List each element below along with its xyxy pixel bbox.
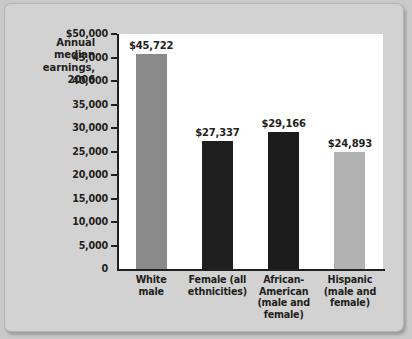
- y-axis-tick: 20,000: [5, 169, 117, 181]
- y-axis-tick: 10,000: [5, 216, 117, 228]
- x-axis-category-label-line: White: [117, 274, 185, 286]
- figure-card: Annualmedianearnings,2006 $50,00045,0004…: [4, 3, 404, 332]
- y-axis-tick: 15,000: [5, 193, 117, 205]
- y-axis-tick-label: 0: [102, 263, 108, 275]
- y-axis-tick-mark: [111, 33, 117, 35]
- x-axis-category-label: Female (allethnicities): [183, 274, 251, 297]
- y-axis-tick-label: $50,000: [66, 28, 108, 40]
- y-axis-tick-label: 20,000: [72, 169, 108, 181]
- y-axis-tick: 0: [5, 263, 117, 275]
- y-axis-tick: 40,000: [5, 75, 117, 87]
- x-axis-category-label-line: ethnicities): [183, 286, 251, 298]
- bar-value-label: $45,722: [129, 40, 173, 51]
- bar-value-label: $24,893: [328, 138, 372, 149]
- x-axis-category-label-line: American: [250, 286, 318, 298]
- y-axis-tick-label: 15,000: [72, 193, 108, 205]
- y-axis-tick-mark: [111, 104, 117, 106]
- y-axis-tick-mark: [111, 174, 117, 176]
- y-axis-tick: 45,000: [5, 52, 117, 64]
- bar: $29,166: [268, 132, 299, 269]
- x-axis-category-label-line: male: [117, 286, 185, 298]
- bars-group: $45,722$27,337$29,166$24,893: [118, 34, 383, 269]
- bar: $27,337: [202, 141, 233, 269]
- x-axis-category-label-line: Hispanic: [316, 274, 384, 286]
- x-axis-category-label-line: African-: [250, 274, 318, 286]
- y-axis-tick-mark: [111, 151, 117, 153]
- x-axis-category-label: Whitemale: [117, 274, 185, 297]
- y-axis-tick: 25,000: [5, 146, 117, 158]
- y-axis-tick-label: 45,000: [72, 52, 108, 64]
- bar-value-label: $27,337: [195, 127, 239, 138]
- x-axis-category-label: Hispanic(male andfemale): [316, 274, 384, 309]
- y-axis-tick-mark: [111, 127, 117, 129]
- x-axis-category-label-line: Female (all: [183, 274, 251, 286]
- x-axis-category-label-line: (male and: [316, 286, 384, 298]
- y-axis-tick-label: 40,000: [72, 75, 108, 87]
- x-axis-line: [117, 269, 385, 271]
- x-axis-category-label-line: female): [250, 309, 318, 321]
- y-axis-tick-mark: [111, 80, 117, 82]
- y-axis-tick: 5,000: [5, 240, 117, 252]
- y-axis-tick-label: 5,000: [79, 240, 108, 252]
- y-axis-tick-label: 25,000: [72, 146, 108, 158]
- bar-value-label: $29,166: [262, 118, 306, 129]
- y-axis-tick-label: 30,000: [72, 122, 108, 134]
- x-axis-category-labels: WhitemaleFemale (allethnicities)African-…: [118, 274, 383, 332]
- x-axis-category-label-line: (male and: [250, 297, 318, 309]
- bar: $24,893: [334, 152, 365, 269]
- y-axis-tick-mark: [111, 221, 117, 223]
- y-axis-tick: 35,000: [5, 99, 117, 111]
- y-axis-tick-label: 10,000: [72, 216, 108, 228]
- x-axis-category-label-line: female): [316, 297, 384, 309]
- y-axis-tick: 30,000: [5, 122, 117, 134]
- y-axis-tick: $50,000: [5, 28, 117, 40]
- y-axis-tick-mark: [111, 245, 117, 247]
- y-axis-tick-mark: [111, 198, 117, 200]
- bar: $45,722: [136, 54, 167, 269]
- y-axis-title-line: earnings,: [17, 62, 95, 74]
- x-axis-category-label: African-American(male andfemale): [250, 274, 318, 320]
- y-axis-tick-mark: [111, 57, 117, 59]
- y-axis-tick-label: 35,000: [72, 99, 108, 111]
